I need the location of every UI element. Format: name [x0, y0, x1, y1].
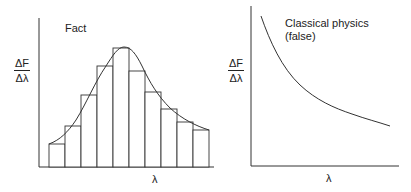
classical-title-line2: (false)	[285, 30, 316, 42]
fact-x-axis-label: λ	[152, 173, 158, 185]
classical-y-label-denominator: Δλ	[228, 71, 244, 84]
classical-y-axis-label: ΔF Δλ	[228, 57, 244, 84]
classical-x-axis-label: λ	[326, 172, 332, 184]
fact-histogram-bars	[49, 48, 209, 167]
classical-curve	[261, 16, 390, 126]
fact-y-axis-label: ΔF Δλ	[14, 57, 30, 84]
classical-title-line1: Classical physics	[285, 17, 369, 29]
classical-axes	[251, 6, 399, 166]
fact-y-label-numerator: ΔF	[14, 57, 30, 71]
fact-y-label-denominator: Δλ	[14, 71, 30, 84]
classical-y-label-numerator: ΔF	[228, 57, 244, 71]
fact-title: Fact	[65, 22, 86, 34]
